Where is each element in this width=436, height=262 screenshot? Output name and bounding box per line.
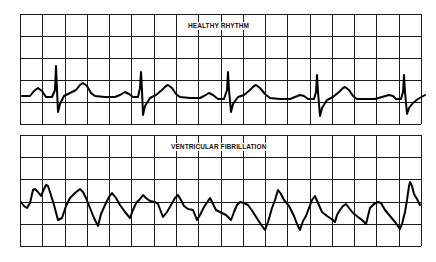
grid-lines	[20, 135, 422, 247]
ventricular-fibrillation-chart	[0, 0, 436, 262]
ventricular-fibrillation-title: VENTRICULAR FIBRILLATION	[170, 143, 267, 151]
ventricular-fibrillation-strip: VENTRICULAR FIBRILLATION	[0, 0, 436, 262]
vfib-ecg-trace	[21, 182, 420, 230]
